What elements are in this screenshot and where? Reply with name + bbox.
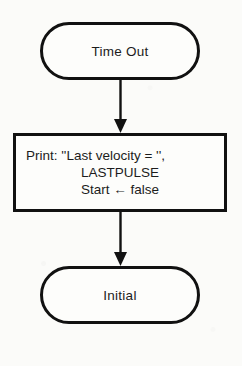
process-line-2: LASTPULSE (81, 164, 159, 181)
flowchart-node-process: Print: ''Last velocity = '', LASTPULSE S… (13, 133, 227, 212)
node-label-time-out: Time Out (91, 44, 148, 59)
flowchart-diagram: Time Out Print: ''Last velocity = '', LA… (0, 0, 242, 366)
process-line-3: Start ← false (81, 181, 159, 198)
flowchart-node-time-out: Time Out (40, 22, 200, 80)
connector-process-to-initial (0, 212, 242, 266)
connector-time-out-to-process (0, 80, 242, 133)
arrow-down-icon (0, 80, 242, 133)
process-line-1: Print: ''Last velocity = '', (26, 147, 165, 164)
node-label-initial: Initial (103, 288, 136, 303)
flowchart-node-initial: Initial (40, 266, 200, 324)
arrow-down-icon (0, 212, 242, 266)
